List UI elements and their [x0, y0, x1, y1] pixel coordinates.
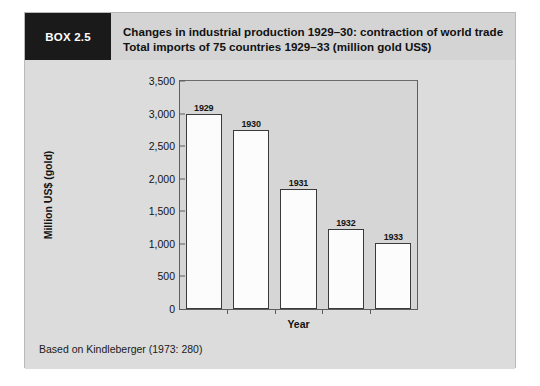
- x-axis-tick-mark: [227, 309, 228, 314]
- y-axis-tick-label: 2,000: [149, 173, 175, 185]
- bar-chart: Million US$ (gold) 05001,0001,5002,0002,…: [25, 60, 517, 330]
- bar: 1932: [328, 229, 364, 309]
- x-axis-tick-mark: [275, 309, 276, 314]
- x-axis-tick-mark: [322, 309, 323, 314]
- y-axis-tick-label: 1,500: [149, 205, 175, 217]
- bar: 1930: [233, 130, 269, 309]
- box-title: Changes in industrial production 1929–30…: [111, 13, 515, 60]
- bar-value-label: 1929: [194, 103, 213, 113]
- x-axis-tick-mark: [370, 309, 371, 314]
- y-axis-tick-label: 3,500: [149, 75, 175, 87]
- box-body: Million US$ (gold) 05001,0001,5002,0002,…: [25, 60, 515, 369]
- y-axis-tick-label: 0: [169, 303, 175, 315]
- y-axis-title-text: Million US$ (gold): [42, 151, 54, 240]
- source-note: Based on Kindleberger (1973: 280): [39, 343, 202, 355]
- x-axis-title: Year: [179, 318, 418, 330]
- box-header: BOX 2.5 Changes in industrial production…: [25, 13, 515, 60]
- bar: 1929: [186, 114, 222, 309]
- bar-value-label: 1930: [241, 119, 260, 129]
- bar-value-label: 1931: [289, 178, 308, 188]
- bar: 1933: [375, 243, 411, 309]
- y-axis-tick-label: 1,000: [149, 238, 175, 250]
- y-axis-tick-label: 500: [157, 270, 175, 282]
- bars-layer: 19291930193119321933: [180, 81, 417, 309]
- y-axis-title: Million US$ (gold): [41, 80, 55, 310]
- y-axis-tick-label: 3,000: [149, 108, 175, 120]
- y-axis-tick-label: 2,500: [149, 140, 175, 152]
- plot-area: 05001,0001,5002,0002,5003,0003,500 19291…: [179, 80, 418, 310]
- bar-value-label: 1932: [336, 218, 355, 228]
- bar: 1931: [280, 189, 316, 310]
- box-container: BOX 2.5 Changes in industrial production…: [24, 12, 516, 368]
- bar-value-label: 1933: [384, 232, 403, 242]
- box-number-tag: BOX 2.5: [25, 13, 111, 60]
